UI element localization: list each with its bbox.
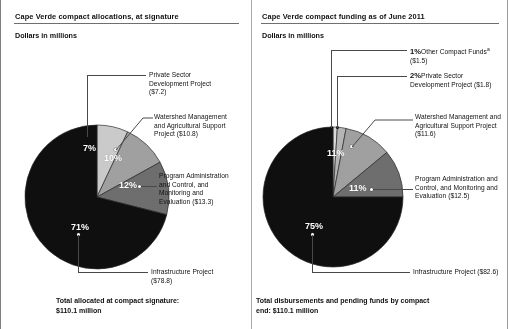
left-pct-program-admin: 12% [119, 180, 137, 190]
right-pct-program-admin: 11% [349, 183, 367, 193]
right-callout-watershed: Watershed Management and Agricultural Su… [415, 113, 501, 139]
right-leader-h-other-funds [331, 50, 407, 51]
right-leader-h-program-admin [373, 189, 413, 190]
right-leader-h-infrastructure [312, 272, 410, 273]
left-callout-infrastructure: Infrastructure Project ($78.8) [151, 268, 227, 285]
right-callout-other-funds: 1%Other Compact Fundsa ($1.5) [410, 45, 502, 65]
right-callout-private-sector-text: Private Sector Development Project ($1.8… [410, 72, 492, 88]
figure-page: Cape Verde compact allocations, at signa… [0, 0, 508, 329]
left-callout-program-admin: Program Administration and Control, and … [159, 172, 235, 206]
right-callout-other-funds-text: Other Compact Funds [421, 48, 487, 55]
left-leader-h-infrastructure [78, 272, 148, 273]
left-title-rule [14, 23, 239, 24]
left-callout-private-sector: Private Sector Development Project ($7.2… [149, 71, 221, 97]
right-callout-other-funds-value: ($1.5) [410, 57, 428, 64]
left-chart-panel: Cape Verde compact allocations, at signa… [1, 0, 251, 329]
left-leader-v-private-sector [87, 75, 88, 137]
right-title-rule [261, 23, 499, 24]
right-pct-watershed: 11% [327, 148, 345, 158]
right-callout-private-sector: 2%Private Sector Development Project ($1… [410, 72, 502, 89]
right-leader-watershed [349, 112, 413, 152]
left-leader-watershed [113, 110, 153, 154]
right-leader-h-private-sector [337, 76, 407, 77]
right-total-caption: Total disbursements and pending funds by… [256, 296, 436, 315]
right-callout-infrastructure: Infrastructure Project ($82.6) [413, 268, 499, 277]
left-callout-watershed: Watershed Management and Agricultural Su… [154, 113, 228, 139]
left-leader-h-program-admin [141, 186, 157, 187]
right-chart-title: Cape Verde compact funding as of June 20… [262, 12, 425, 21]
left-pct-infrastructure: 71% [71, 222, 89, 232]
right-leader-v-other-funds [331, 50, 332, 128]
left-total-caption: Total allocated at compact signature: $1… [56, 296, 191, 315]
right-callout-private-sector-pct: 2% [410, 71, 421, 80]
left-pct-watershed: 10% [104, 153, 122, 163]
right-chart-subtitle: Dollars in millions [262, 31, 324, 40]
left-pct-private-sector: 7% [83, 143, 96, 153]
left-chart-subtitle: Dollars in millions [15, 31, 77, 40]
right-callout-other-funds-pct: 1% [410, 47, 421, 56]
right-chart-panel: Cape Verde compact funding as of June 20… [252, 0, 508, 329]
left-leader-h-private-sector [87, 75, 146, 76]
right-pct-infrastructure: 75% [305, 221, 323, 231]
right-callout-program-admin: Program Administration and Control, and … [415, 175, 501, 201]
left-chart-title: Cape Verde compact allocations, at signa… [15, 12, 179, 21]
right-leader-v-infrastructure [312, 235, 313, 273]
right-leader-v-private-sector [337, 76, 338, 128]
left-leader-v-infrastructure [78, 235, 79, 273]
right-callout-other-funds-footnote: a [487, 46, 490, 52]
